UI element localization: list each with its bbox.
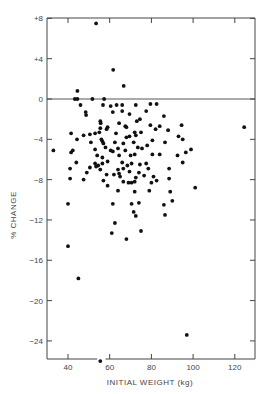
data-point <box>75 137 79 141</box>
data-point <box>93 131 97 135</box>
data-point <box>76 89 80 93</box>
data-point <box>149 123 153 127</box>
data-point <box>134 103 138 107</box>
data-point <box>151 153 155 157</box>
data-point <box>114 131 118 135</box>
data-point <box>101 162 105 166</box>
data-point <box>79 103 83 107</box>
data-point <box>139 130 143 134</box>
y-tick-label: −4 <box>34 135 44 144</box>
data-point <box>158 153 162 157</box>
data-point <box>102 97 106 101</box>
data-point <box>134 133 138 137</box>
data-point <box>151 138 155 142</box>
x-axis: 406080100120 <box>64 18 242 372</box>
data-point <box>68 167 72 171</box>
data-point <box>180 123 184 127</box>
data-point <box>120 109 124 113</box>
data-point <box>112 173 116 177</box>
data-point <box>167 177 171 181</box>
data-point <box>136 146 140 150</box>
data-point <box>102 142 106 146</box>
data-point <box>109 104 113 108</box>
data-point <box>101 103 105 107</box>
data-point <box>99 121 103 125</box>
data-point <box>167 167 171 171</box>
y-tick-label: 0 <box>39 95 44 104</box>
y-tick-label: −12 <box>29 216 43 225</box>
data-point <box>133 190 137 194</box>
y-tick-label: +4 <box>34 55 44 64</box>
data-point <box>118 175 122 179</box>
data-point <box>163 213 167 217</box>
data-point <box>85 171 89 175</box>
data-point <box>98 359 102 363</box>
data-point <box>91 97 95 101</box>
data-point <box>181 161 185 165</box>
data-point <box>193 186 197 190</box>
data-point <box>139 229 143 233</box>
data-point <box>116 147 120 151</box>
data-point <box>121 180 125 184</box>
data-point <box>129 154 133 158</box>
data-point <box>88 132 92 136</box>
data-point <box>170 199 174 203</box>
data-point <box>138 117 142 121</box>
data-point <box>84 113 88 117</box>
data-point <box>102 179 106 183</box>
data-point <box>94 22 98 26</box>
data-point <box>95 154 99 158</box>
data-point <box>98 126 102 130</box>
data-point <box>97 130 101 134</box>
data-point <box>132 140 136 144</box>
data-point <box>137 171 141 175</box>
data-point <box>52 149 56 153</box>
data-point <box>150 181 154 185</box>
data-point <box>105 173 109 177</box>
data-point <box>184 151 188 155</box>
data-point <box>146 167 150 171</box>
x-tick-label: 80 <box>147 363 156 372</box>
data-point <box>125 125 129 129</box>
data-point <box>101 156 105 160</box>
data-point <box>113 140 117 144</box>
data-point <box>162 114 166 118</box>
data-point <box>66 244 70 248</box>
data-point <box>145 144 149 148</box>
data-point <box>113 221 117 225</box>
data-point <box>138 163 142 167</box>
scatter-chart: +8+40−4−8−12−16−20−24 406080100120 % CHA… <box>0 0 269 394</box>
data-point <box>130 202 134 206</box>
data-point <box>176 154 180 158</box>
data-point <box>128 170 132 174</box>
data-point <box>89 140 93 144</box>
data-point <box>93 148 97 152</box>
y-axis-title: % CHANGE <box>9 191 18 239</box>
data-point <box>154 127 158 131</box>
data-point <box>115 103 119 107</box>
data-point <box>69 131 73 135</box>
data-point <box>163 140 167 144</box>
data-point <box>166 128 170 132</box>
data-point <box>76 97 80 101</box>
data-point <box>106 184 110 188</box>
data-point <box>68 177 72 181</box>
y-tick-label: −8 <box>34 176 44 185</box>
data-point <box>125 237 129 241</box>
y-axis: +8+40−4−8−12−16−20−24 <box>29 14 255 346</box>
data-point <box>189 148 193 152</box>
data-point <box>77 277 81 281</box>
y-tick-label: −24 <box>29 337 43 346</box>
data-point <box>185 333 189 337</box>
data-point <box>71 149 75 153</box>
plot-frame <box>47 18 255 359</box>
data-point <box>168 190 172 194</box>
data-point <box>137 201 141 205</box>
data-point <box>162 203 166 207</box>
data-point <box>152 175 156 179</box>
data-point <box>116 189 120 193</box>
data-point <box>134 214 138 218</box>
data-point <box>181 137 185 141</box>
data-point <box>121 167 125 171</box>
data-point <box>123 149 127 153</box>
